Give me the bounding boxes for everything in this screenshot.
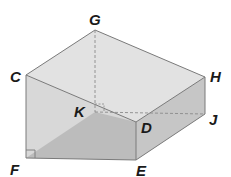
prism-diagram: G C H K D J F E: [0, 0, 231, 177]
label-c: C: [10, 68, 22, 85]
label-h: H: [210, 68, 222, 85]
label-f: F: [10, 161, 20, 177]
label-g: G: [89, 11, 101, 28]
label-k: K: [74, 103, 86, 120]
label-e: E: [136, 162, 147, 177]
label-j: J: [209, 111, 218, 128]
label-d: D: [141, 119, 152, 136]
